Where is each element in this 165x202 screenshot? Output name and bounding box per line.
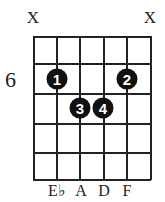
fret-line	[33, 36, 151, 38]
muted-string-marker: X	[27, 9, 39, 26]
finger-dot: 4	[93, 98, 114, 119]
string-line	[126, 36, 128, 180]
muted-string-marker: X	[144, 9, 156, 26]
note-label: D	[98, 183, 110, 199]
note-label: E♭	[48, 183, 66, 199]
fret-line	[33, 152, 151, 154]
note-label: A	[75, 183, 87, 199]
finger-dot: 1	[47, 69, 68, 90]
finger-dot: 2	[117, 69, 138, 90]
string-line	[56, 36, 58, 180]
fret-line	[33, 179, 151, 181]
note-label: F	[123, 183, 132, 199]
string-line	[33, 36, 35, 180]
fret-line	[33, 123, 151, 125]
fret-line	[33, 63, 151, 65]
string-line	[150, 36, 152, 180]
fret-line	[33, 93, 151, 95]
finger-dot: 3	[70, 98, 91, 119]
start-fret-label: 6	[5, 69, 16, 91]
